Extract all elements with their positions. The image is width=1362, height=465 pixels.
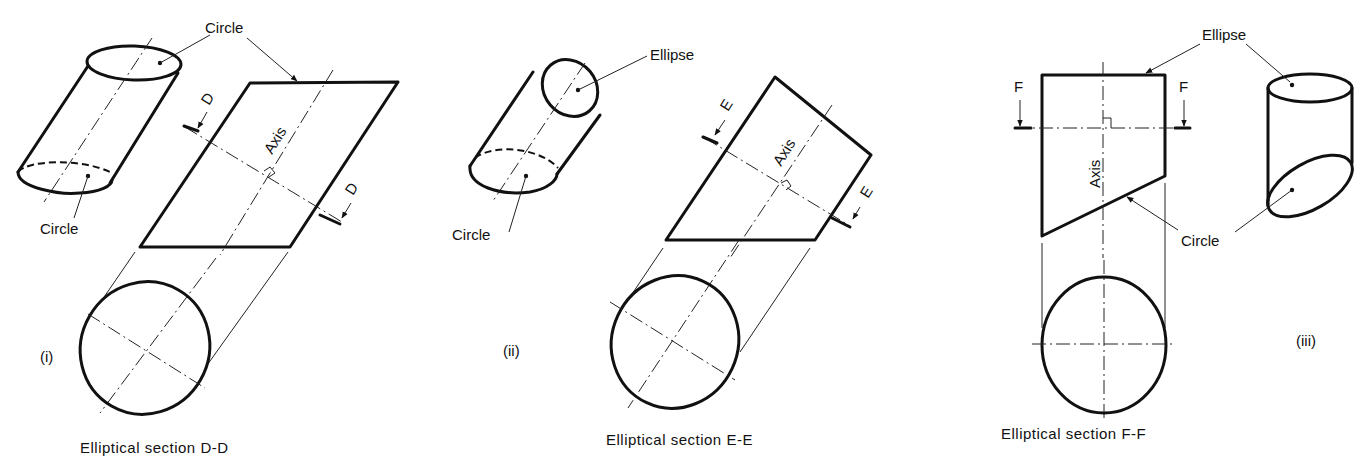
section-letter-d-top: D: [197, 89, 217, 107]
cylinder-ii: [470, 48, 609, 201]
elliptical-sections-diagram: Circle Circle Axis D D (i) Elliptical se…: [0, 0, 1362, 465]
cylinder-i: [18, 38, 182, 202]
panel-ii: Ellipse Circle Axis E E (ii) Elliptical …: [452, 46, 876, 448]
label-top-ellipse: Ellipse: [650, 46, 694, 63]
section-letter-d-bottom: D: [341, 179, 361, 197]
section-letter-e-bottom: E: [856, 183, 876, 201]
caption-iii: Elliptical section F-F: [1001, 425, 1146, 442]
axis-label-ii: Axis: [769, 136, 798, 169]
label-top-circle: Circle: [205, 19, 243, 36]
axis-label-i: Axis: [260, 124, 289, 157]
caption-ii: Elliptical section E-E: [606, 431, 753, 448]
section-letter-f-right: F: [1179, 78, 1188, 95]
label-ellipse: Ellipse: [1202, 26, 1246, 43]
caption-i: Elliptical section D-D: [80, 439, 229, 456]
section-letter-f-left: F: [1014, 78, 1023, 95]
panel-number-ii: (ii): [503, 342, 520, 359]
panel-iii: Axis F F Ellipse Circle (iii) Ellipti: [1001, 26, 1362, 442]
axis-line-i: [220, 70, 333, 255]
leader-line: [74, 176, 88, 218]
section-plane-ii: [666, 77, 871, 240]
label-bottom-circle: Circle: [40, 220, 78, 237]
panel-i: Circle Circle Axis D D (i) Elliptical se…: [18, 19, 398, 456]
label-bottom-circle: Circle: [452, 226, 490, 243]
leader-line: [160, 35, 210, 63]
cylinder-iii: [1235, 44, 1362, 232]
label-circle: Circle: [1181, 232, 1219, 249]
panel-number-i: (i): [40, 348, 53, 365]
section-letter-e-top: E: [716, 96, 736, 114]
elliptical-section-d-d: [56, 258, 234, 438]
panel-number-iii: (iii): [1296, 332, 1316, 349]
axis-label-iii: Axis: [1086, 160, 1103, 188]
section-plane-i: [140, 82, 398, 247]
leader-arrow: [247, 38, 297, 81]
